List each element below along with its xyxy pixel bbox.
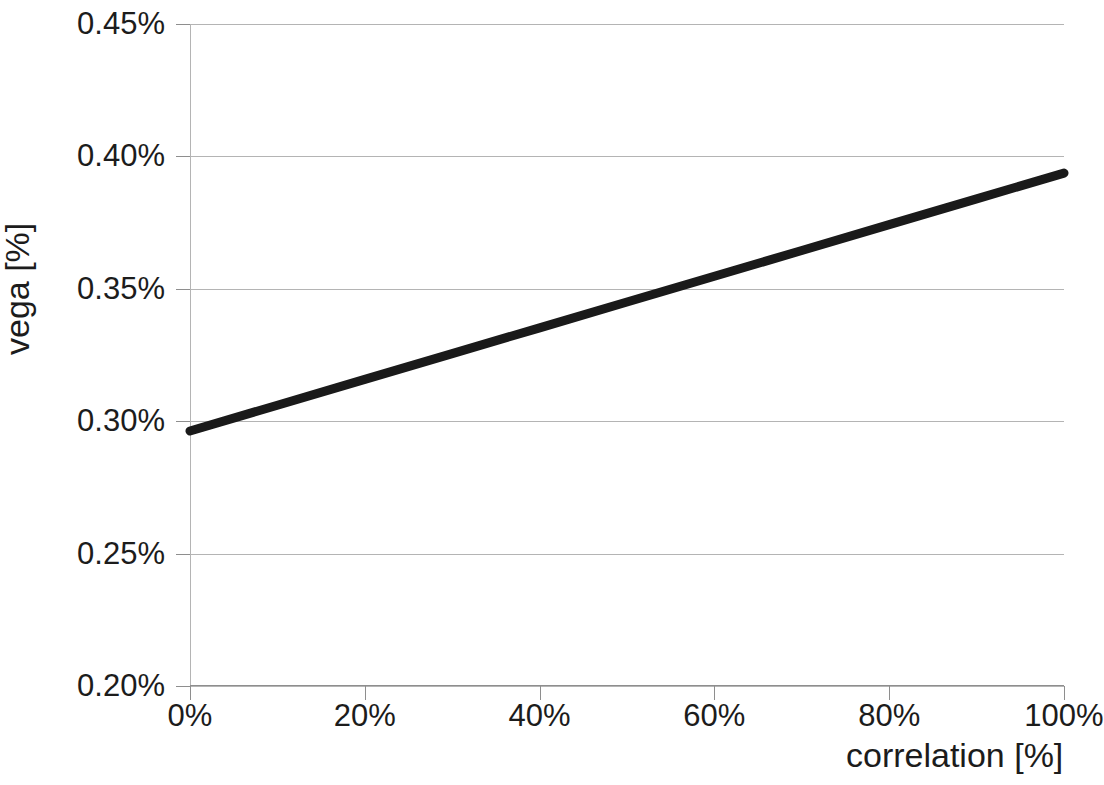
x-tick-label: 40%	[509, 700, 571, 731]
data-series-vega	[190, 24, 1064, 686]
y-tick-mark	[176, 156, 190, 157]
x-tick-label: 20%	[334, 700, 396, 731]
y-tick-mark	[176, 289, 190, 290]
x-tick-label: 80%	[858, 700, 920, 731]
gridline-y	[190, 686, 1064, 687]
y-tick-label: 0.25%	[5, 538, 165, 569]
x-axis-title: correlation [%]	[846, 738, 1063, 772]
y-tick-label: 0.20%	[5, 670, 165, 701]
y-tick-label: 0.40%	[5, 140, 165, 171]
x-tick-label: 100%	[1024, 700, 1103, 731]
x-tick-label: 0%	[168, 700, 213, 731]
y-tick-mark	[176, 686, 190, 687]
series-line-vega	[190, 173, 1064, 431]
x-tick-label: 60%	[683, 700, 745, 731]
y-tick-label: 0.45%	[5, 8, 165, 39]
y-tick-label: 0.35%	[5, 273, 165, 304]
y-tick-mark	[176, 421, 190, 422]
y-tick-mark	[176, 554, 190, 555]
y-tick-mark	[176, 24, 190, 25]
plot-area	[190, 24, 1064, 686]
y-tick-label: 0.30%	[5, 405, 165, 436]
